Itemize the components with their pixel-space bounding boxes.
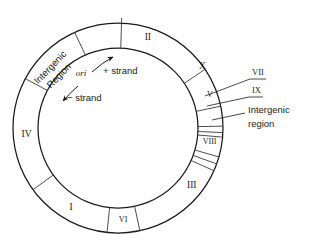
- callout-label-intergenic-line1: Intergenic: [248, 104, 290, 115]
- segment-label-x: X: [199, 61, 206, 71]
- segment-label-ii: II: [145, 32, 151, 42]
- outer-ring-circle: [13, 23, 223, 233]
- segment-label-i: I: [69, 202, 72, 212]
- divider-line: [74, 32, 85, 55]
- divider-line: [195, 150, 219, 157]
- ori-label: ori: [76, 68, 87, 78]
- intergenic-region-ring-label: Intergenic Region: [32, 48, 78, 94]
- divider-line: [198, 131, 223, 132]
- leader-line-intergenic: [212, 113, 245, 120]
- callout-label-ix: IX: [252, 85, 261, 95]
- segment-label-viii: VIII: [203, 137, 217, 146]
- divider-line: [135, 206, 140, 230]
- callout-label-intergenic-line2: region: [248, 118, 274, 129]
- genome-diagram-svg: II X V VIII III VI I IV Intergenic Regio…: [0, 0, 317, 245]
- divider-line: [196, 106, 220, 111]
- minus-strand-label: − strand: [67, 92, 102, 103]
- plus-strand-label: + strand: [103, 65, 138, 76]
- divider-line: [33, 175, 53, 190]
- segment-label-iii: III: [187, 180, 197, 190]
- circular-genome-map-figure: II X V VIII III VI I IV Intergenic Regio…: [0, 0, 317, 245]
- segment-label-iv: IV: [21, 129, 31, 139]
- divider-line: [184, 69, 205, 83]
- segment-label-vi: VI: [119, 215, 128, 224]
- divider-line: [107, 208, 110, 233]
- callout-label-vii: VII: [252, 67, 264, 77]
- callout-labels: VII IX Intergenic region: [248, 67, 290, 129]
- leader-line-ix: [207, 97, 249, 106]
